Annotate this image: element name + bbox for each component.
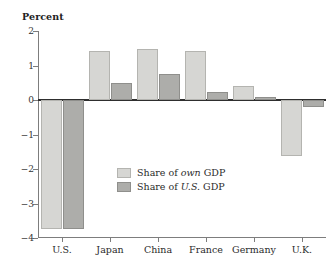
bar — [185, 51, 206, 100]
bar — [41, 100, 62, 229]
chart-legend: Share of own GDPShare of U.S. GDP — [117, 166, 225, 194]
x-tick-mark — [158, 237, 159, 242]
plot-area: 210−1−2−3−4 U.S.JapanChinaFranceGermanyU… — [38, 31, 326, 238]
x-tick-mark — [206, 237, 207, 242]
bar — [281, 100, 302, 156]
y-tick-label: −3 — [21, 199, 34, 209]
bar — [89, 51, 110, 100]
legend-label: Share of U.S. GDP — [137, 181, 225, 192]
y-axis-title: Percent — [22, 11, 64, 22]
y-tick-label: −1 — [21, 130, 34, 140]
bar — [159, 74, 180, 100]
x-axis-label-us: U.S. — [52, 244, 71, 255]
x-axis-label-germany: Germany — [232, 244, 276, 255]
x-tick-mark — [62, 237, 63, 242]
y-tick-label: −2 — [21, 164, 34, 174]
y-tick-label: 0 — [28, 95, 34, 105]
x-tick-mark — [110, 237, 111, 242]
bar — [111, 83, 132, 100]
bar — [255, 97, 276, 100]
x-axis-label-uk: U.K. — [292, 244, 312, 255]
x-axis-label-france: France — [189, 244, 223, 255]
bar — [303, 100, 324, 107]
x-tick-mark — [302, 237, 303, 242]
bar — [137, 49, 158, 100]
x-axis-line — [38, 237, 326, 238]
bar — [63, 100, 84, 229]
bar-chart-figure: Percent 210−1−2−3−4 U.S.JapanChinaFrance… — [0, 0, 333, 274]
bar — [233, 86, 254, 100]
legend-item: Share of U.S. GDP — [117, 180, 225, 193]
x-axis-label-china: China — [144, 244, 172, 255]
y-tick-label: 2 — [28, 26, 34, 36]
legend-label: Share of own GDP — [137, 167, 225, 178]
y-tick-label: 1 — [28, 61, 34, 71]
x-axis-label-japan: Japan — [96, 244, 123, 255]
y-axis-line — [38, 31, 39, 238]
legend-swatch — [117, 182, 131, 192]
legend-swatch — [117, 168, 131, 178]
x-tick-mark — [254, 237, 255, 242]
y-tick-label: −4 — [21, 233, 34, 243]
legend-item: Share of own GDP — [117, 166, 225, 179]
bar — [207, 92, 228, 100]
